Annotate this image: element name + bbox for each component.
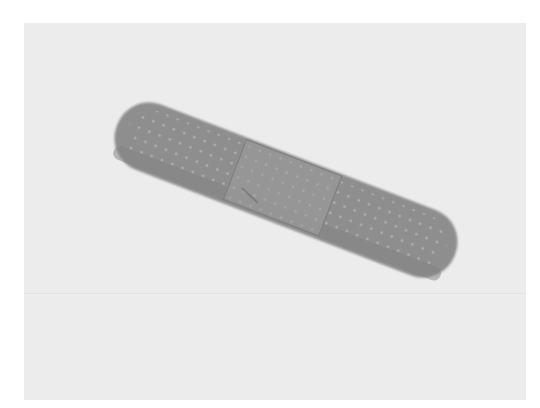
pad-perforations xyxy=(224,139,342,235)
adhesive-bandage xyxy=(104,92,467,287)
bandage-illustration xyxy=(0,0,540,408)
